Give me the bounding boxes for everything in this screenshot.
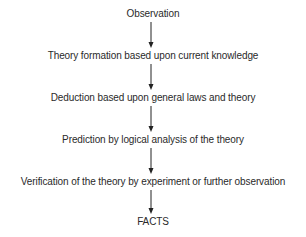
arrow-prediction-to-verification (149, 148, 154, 174)
arrows-layer (0, 0, 306, 237)
arrow-verification-to-facts (149, 190, 154, 214)
arrow-observation-to-theory (149, 22, 154, 48)
arrow-deduction-to-prediction (149, 106, 154, 132)
arrow-theory-to-deduction (149, 64, 154, 90)
